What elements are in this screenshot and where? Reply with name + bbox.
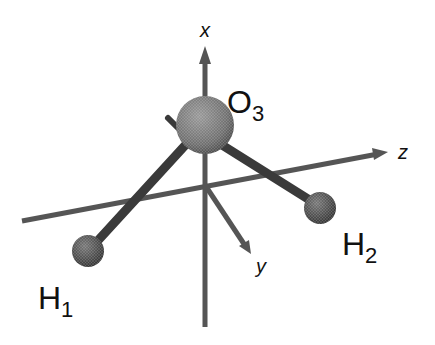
y-axis xyxy=(205,185,251,254)
atom-label-o3: O3 xyxy=(227,86,264,125)
atom-index-3: 3 xyxy=(252,101,264,126)
atom-label-h2: H2 xyxy=(342,228,377,267)
bond-o3-h2 xyxy=(222,145,316,204)
atom-element-o: O xyxy=(227,84,252,120)
z-axis-label: z xyxy=(398,142,408,162)
atom-o3 xyxy=(176,96,234,154)
atom-h2 xyxy=(304,192,336,224)
atom-index-2: 2 xyxy=(365,243,377,268)
atom-element-h: H xyxy=(342,226,365,262)
molecule-diagram: x z y O3 H1 H2 xyxy=(0,0,435,345)
atom-element-h: H xyxy=(38,280,61,316)
atom-index-1: 1 xyxy=(61,297,73,322)
atom-h1 xyxy=(72,235,104,267)
atom-label-h1: H1 xyxy=(38,282,73,321)
x-axis-label: x xyxy=(200,20,210,40)
y-axis-label: y xyxy=(256,256,266,276)
